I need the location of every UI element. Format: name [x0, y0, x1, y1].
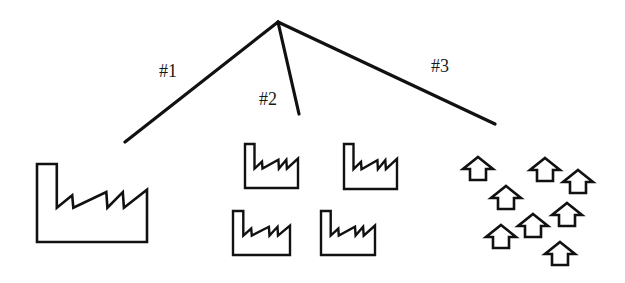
branch-line-3: [278, 22, 495, 124]
factory-icon: [321, 211, 375, 255]
up-arrow-icon: [491, 186, 521, 209]
up-arrow-icon: [518, 214, 548, 237]
eight-arrows: [463, 157, 593, 265]
four-small-factories: [233, 144, 397, 255]
branch-line-1: [125, 22, 278, 142]
up-arrow-icon: [530, 158, 560, 181]
branch-label-1: #1: [159, 62, 177, 80]
leaf-groups: [37, 144, 593, 265]
up-arrow-icon: [486, 225, 516, 248]
branch-line-2: [278, 22, 299, 114]
branch-label-3: #3: [431, 57, 449, 75]
up-arrow-icon: [552, 203, 582, 226]
branch-label-2: #2: [259, 90, 277, 108]
branch-lines: [125, 22, 495, 142]
up-arrow-icon: [545, 242, 575, 265]
one-large-factory: [37, 164, 147, 242]
factory-icon: [245, 144, 298, 188]
factory-icon: [37, 164, 147, 242]
factory-icon: [344, 144, 397, 189]
up-arrow-icon: [563, 170, 593, 193]
factory-icon: [233, 211, 290, 255]
tree-diagram: [0, 0, 625, 283]
up-arrow-icon: [463, 157, 493, 180]
